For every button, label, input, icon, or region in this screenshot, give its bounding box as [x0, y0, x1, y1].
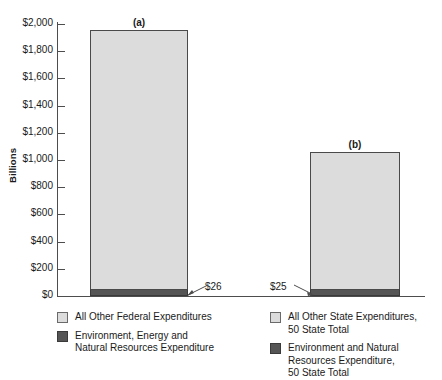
y-tick-label: $1,600 — [22, 71, 53, 82]
y-tick-label: $600 — [31, 207, 53, 218]
legend-item-label: Environment and Natural Resources Expend… — [288, 342, 399, 380]
y-tick-label: $0 — [42, 289, 53, 300]
legend-swatch-light-icon — [57, 312, 68, 323]
legend-item: All Other State Expenditures, 50 State T… — [270, 311, 442, 336]
callout-leader-26 — [186, 283, 210, 299]
y-tick-mark — [58, 24, 65, 25]
callout-label-25: $25 — [270, 281, 287, 292]
legend-item-label: Environment, Energy and Natural Resource… — [75, 330, 214, 355]
legend-item: Environment and Natural Resources Expend… — [270, 342, 442, 380]
bar-chart-figure: Billions $2,000 $1,800 $1,600 $1,400 $1,… — [0, 0, 442, 380]
legend-item: Environment, Energy and Natural Resource… — [57, 330, 232, 355]
y-tick-mark — [58, 187, 65, 188]
bar-federal-all-other — [90, 30, 188, 293]
y-tick-mark — [58, 160, 65, 161]
legend-item-label: All Other Federal Expenditures — [75, 311, 212, 324]
y-tick-mark — [58, 214, 65, 215]
legend-swatch-dark-icon — [270, 343, 281, 354]
legend-item: All Other Federal Expenditures — [57, 311, 232, 324]
y-tick-mark — [58, 106, 65, 107]
bar-federal-environment — [90, 289, 188, 296]
y-tick-mark — [58, 133, 65, 134]
y-tick-label: $1,200 — [22, 126, 53, 137]
legend-swatch-dark-icon — [57, 331, 68, 342]
y-tick-mark — [58, 269, 65, 270]
x-axis-baseline — [57, 296, 425, 297]
bar-caption-b: (b) — [310, 139, 400, 150]
y-tick-label: $200 — [31, 262, 53, 273]
bar-state-all-other — [310, 152, 400, 293]
legend-left: All Other Federal Expenditures Environme… — [57, 311, 232, 361]
y-tick-label: $800 — [31, 180, 53, 191]
y-tick-label: $1,800 — [22, 44, 53, 55]
y-tick-label: $2,000 — [22, 17, 53, 28]
y-tick-label: $400 — [31, 235, 53, 246]
y-tick-mark — [58, 242, 65, 243]
y-tick-mark — [58, 78, 65, 79]
legend-right: All Other State Expenditures, 50 State T… — [270, 311, 442, 380]
bar-state-environment — [310, 289, 400, 296]
y-tick-mark — [58, 51, 65, 52]
legend-item-label: All Other State Expenditures, 50 State T… — [288, 311, 417, 336]
y-tick-label: $1,400 — [22, 99, 53, 110]
bar-caption-a: (a) — [90, 17, 188, 28]
y-tick-label: $1,000 — [22, 153, 53, 164]
callout-leader-25 — [294, 283, 316, 299]
y-axis-title: Billions — [7, 136, 18, 196]
legend-swatch-light-icon — [270, 312, 281, 323]
